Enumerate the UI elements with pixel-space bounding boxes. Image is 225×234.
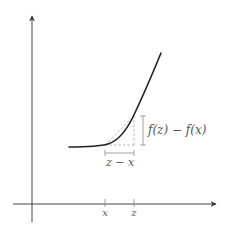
vertical-bracket-label: f(z) − f(x)	[147, 123, 207, 137]
secant-line	[105, 116, 134, 145]
vertical-bracket	[140, 116, 146, 145]
guide-triangle	[105, 116, 134, 145]
tick-label-x: x	[102, 207, 108, 218]
horizontal-bracket-label: z − x	[105, 156, 135, 169]
tick-label-z: z	[130, 207, 137, 218]
diagram-canvas: x z f(z) − f(x) z − x	[0, 0, 225, 234]
